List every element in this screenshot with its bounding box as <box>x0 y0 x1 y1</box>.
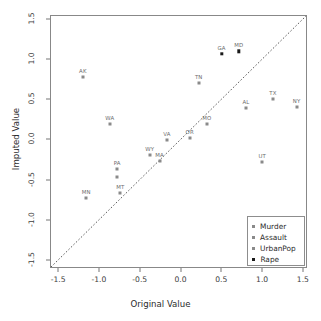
legend-box: Murder Assault UrbanPop Rape <box>247 216 305 266</box>
data-point-label-mt: MT <box>116 184 124 190</box>
x-tick-label-3: 0.0 <box>174 275 186 284</box>
data-point-label-or: OR <box>186 129 194 135</box>
x-tick-label-4: 0.5 <box>215 275 227 284</box>
y-tick-label-3: 0.0 <box>27 128 36 150</box>
legend-label-urbanpop: UrbanPop <box>260 245 296 252</box>
x-tick-label-1: -1.0 <box>92 275 107 284</box>
data-point-label-ma: MA <box>155 152 164 158</box>
y-tick-label-2: -0.5 <box>27 168 36 190</box>
y-tick-label-5: 1.0 <box>27 48 36 70</box>
data-point-mo <box>205 122 208 125</box>
x-tick-label-0: -1.5 <box>51 275 66 284</box>
y-tick-label-4: 0.5 <box>27 88 36 110</box>
data-point-label-ny: NY <box>293 98 301 104</box>
data-point-md <box>237 50 240 53</box>
data-point-label-wa: WA <box>105 115 114 121</box>
y-tick-label-0: -1.5 <box>27 248 36 270</box>
scatter-plot-figure: Original Value Imputed Value -1.5-1.0-0.… <box>0 0 321 321</box>
data-point-label-md: MD <box>234 42 243 48</box>
data-point-pa2 <box>116 176 119 179</box>
data-point-label-va: VA <box>163 131 170 137</box>
data-point-label-wy: WY <box>145 146 154 152</box>
legend-marker-assault-icon <box>252 236 255 239</box>
legend-item-murder[interactable]: Murder <box>252 221 304 232</box>
data-point-wy <box>148 153 151 156</box>
x-tick-6 <box>302 268 303 272</box>
x-tick-0 <box>58 268 59 272</box>
data-point-wa <box>108 123 111 126</box>
legend-marker-murder-icon <box>252 225 255 228</box>
legend-item-rape[interactable]: Rape <box>252 254 304 265</box>
data-point-tx <box>271 97 274 100</box>
x-tick-label-2: -0.5 <box>132 275 147 284</box>
x-tick-1 <box>98 268 99 272</box>
x-tick-2 <box>139 268 140 272</box>
legend-label-assault: Assault <box>260 234 287 241</box>
x-tick-4 <box>221 268 222 272</box>
data-point-ut <box>261 161 264 164</box>
x-tick-3 <box>180 268 181 272</box>
legend-item-assault[interactable]: Assault <box>252 232 304 243</box>
y-axis-title: Imputed Value <box>11 79 21 199</box>
x-axis-title: Original Value <box>0 299 321 309</box>
data-point-label-mn: MN <box>82 189 91 195</box>
data-point-label-ak: AK <box>79 68 86 74</box>
data-point-ma <box>158 159 161 162</box>
data-point-label-tn: TN <box>195 74 203 80</box>
legend-label-rape: Rape <box>260 256 279 263</box>
x-tick-5 <box>262 268 263 272</box>
data-point-mn <box>85 196 88 199</box>
data-point-al <box>244 107 247 110</box>
y-tick-label-6: 1.5 <box>27 8 36 30</box>
legend-marker-urbanpop-icon <box>252 247 255 250</box>
data-point-label-tx: TX <box>269 90 276 96</box>
legend-label-murder: Murder <box>260 223 286 230</box>
x-tick-label-5: 1.0 <box>256 275 268 284</box>
data-point-va <box>165 139 168 142</box>
x-tick-label-6: 1.5 <box>297 275 309 284</box>
data-point-label-al: AL <box>243 99 250 105</box>
data-point-pa <box>116 167 119 170</box>
data-point-label-pa: PA <box>114 160 121 166</box>
data-point-label-ga: GA <box>217 45 225 51</box>
data-point-ak <box>81 76 84 79</box>
data-point-tn <box>197 81 200 84</box>
y-tick-label-1: -1.0 <box>27 208 36 230</box>
data-point-or <box>188 137 191 140</box>
data-point-mt <box>119 191 122 194</box>
data-point-label-mo: MO <box>202 115 211 121</box>
legend-item-urbanpop[interactable]: UrbanPop <box>252 243 304 254</box>
data-point-ny <box>295 105 298 108</box>
legend-marker-rape-icon <box>252 258 255 261</box>
data-point-label-ut: UT <box>259 153 266 159</box>
data-point-ga <box>220 52 223 55</box>
